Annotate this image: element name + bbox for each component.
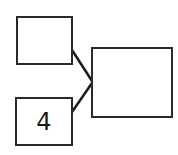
part-box-bottom[interactable]: 4 [15,97,73,146]
part-bottom-value: 4 [36,108,51,136]
part-box-top[interactable] [16,16,73,65]
whole-box[interactable] [91,47,173,118]
